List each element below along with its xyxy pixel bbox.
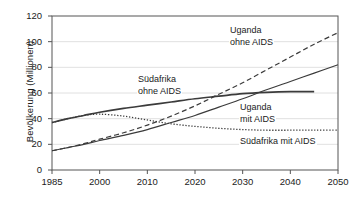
series-label-line2: ohne AIDS xyxy=(230,37,273,49)
series-line-1 xyxy=(52,114,338,130)
series-label-uganda-mit-aids: Uganda mit AIDS xyxy=(239,102,276,125)
population-projection-chart: Bevölkerung (Millionen) 020406080100120 … xyxy=(0,0,355,204)
series-label-line2: ohne AIDS xyxy=(138,86,181,98)
series-label-line1: Südafrika xyxy=(138,74,181,86)
series-label-suedafrika-ohne-aids: Südafrika ohne AIDS xyxy=(137,74,182,97)
series-label-uganda-ohne-aids: Uganda ohne AIDS xyxy=(229,25,274,48)
series-label-line2: mit AIDS xyxy=(240,114,275,126)
series-label-line1: Uganda xyxy=(240,102,275,114)
plot-area xyxy=(0,0,355,204)
series-label-line1: Südafrika mit AIDS xyxy=(240,136,316,148)
series-label-line1: Uganda xyxy=(230,25,273,37)
series-lines xyxy=(52,33,338,151)
axis-ticks xyxy=(48,16,338,174)
series-label-suedafrika-mit-aids: Südafrika mit AIDS xyxy=(239,136,317,148)
gridlines xyxy=(52,42,338,145)
